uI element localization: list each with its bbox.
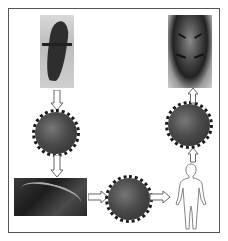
tiger-stripe: [176, 53, 186, 58]
pangolin-body-shape: [18, 178, 84, 215]
tiger-stripe: [194, 53, 204, 58]
virus-icon: [168, 104, 210, 146]
bat-wing-shape: [44, 20, 70, 82]
tiger-stripe: [178, 33, 186, 39]
human-outline-icon: [172, 162, 210, 232]
pangolin-image: [14, 178, 87, 216]
arrow-right-virus-to-human: [150, 190, 171, 204]
arrow-down-bat-to-virus: [50, 90, 64, 111]
bat-arm-shape: [42, 43, 72, 46]
arrow-up-human-to-virus: [187, 148, 199, 163]
bat-image: [40, 15, 74, 88]
tiger-image: [168, 15, 212, 88]
tiger-stripe: [194, 33, 202, 39]
arrow-down-virus-to-pangolin: [50, 155, 64, 178]
virus-icon: [108, 178, 150, 220]
arrow-up-virus-to-tiger: [187, 88, 199, 104]
virus-icon: [35, 112, 77, 154]
